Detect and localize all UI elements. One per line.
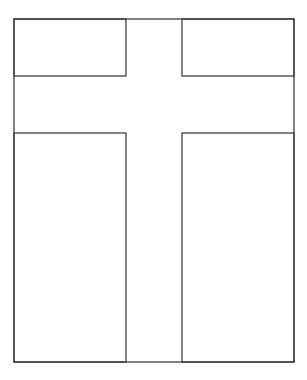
panel-bottom-right — [182, 133, 294, 362]
outer-border — [14, 19, 294, 362]
panel-bottom-left — [14, 133, 126, 362]
cross-outline-diagram — [0, 0, 307, 380]
panel-top-right — [182, 19, 294, 76]
panel-top-left — [14, 19, 126, 76]
